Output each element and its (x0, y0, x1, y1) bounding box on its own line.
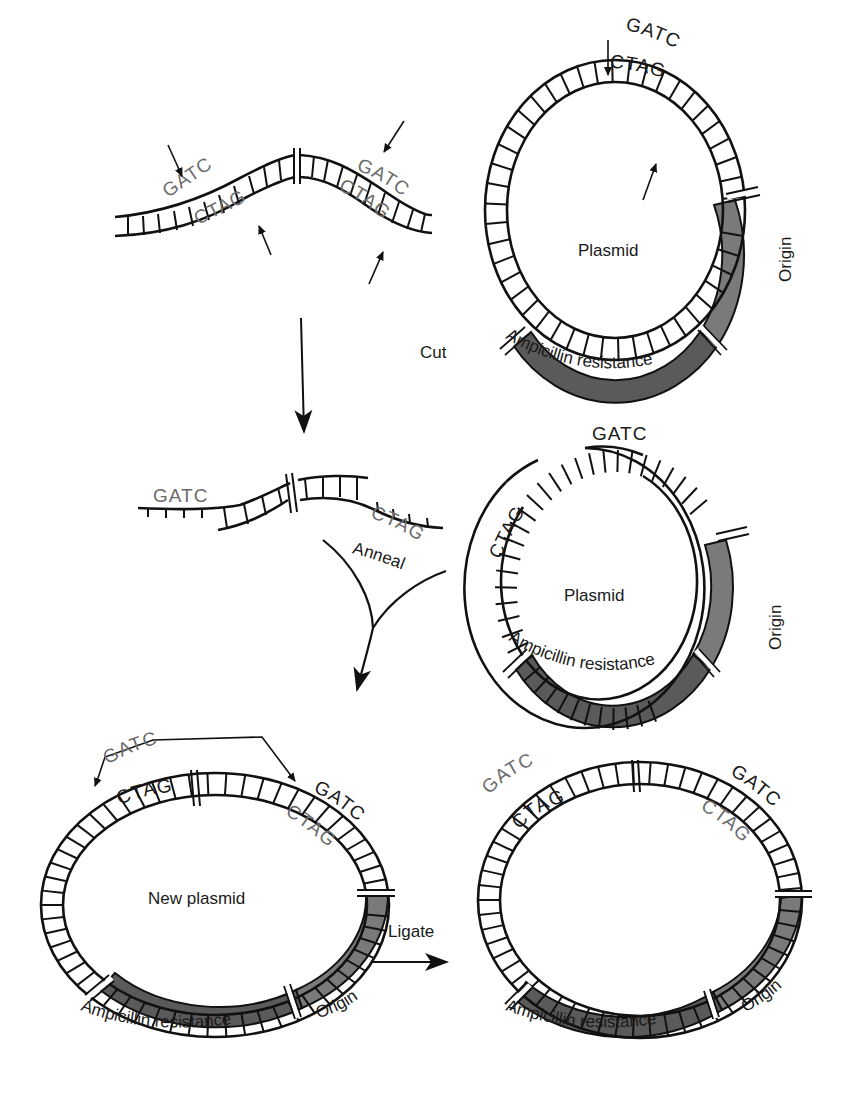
seq-ctag: CTAG (485, 502, 529, 561)
plasmid-step2: GATC CTAG Plasmid Origin Ampicillin resi… (464, 423, 785, 730)
seq-ctag: CTAG (191, 185, 250, 228)
plasmid-label: Plasmid (564, 586, 624, 605)
seq-gatc: GATC (153, 485, 208, 506)
cut-arrow-icon (259, 226, 271, 255)
ligate-label: Ligate (388, 922, 434, 941)
plasmid-label: Plasmid (578, 241, 638, 260)
cut-label: Cut (420, 343, 447, 362)
anneal-label: Anneal (351, 538, 408, 573)
origin-label: Origin (776, 237, 795, 282)
insert-fragment-step1: GATC CTAG GATC CTAG (115, 121, 432, 284)
seq-gatc: GATC (624, 13, 684, 52)
cloning-diagram: GATC CTAG GATC CTAG GATC CTAG Plasmid Or… (0, 0, 850, 1100)
plasmid-step1: GATC CTAG Plasmid Origin Ampicillin resi… (485, 13, 795, 402)
seq-gatc: GATC (477, 748, 536, 797)
seq-gatc: GATC (99, 727, 160, 768)
cut-arrow-icon (643, 164, 656, 200)
final-plasmid: GATC CTAG GATC CTAG Origin Ampicillin re… (477, 748, 812, 1038)
seq-ctag: CTAG (369, 502, 429, 545)
seq-ctag: CTAG (698, 795, 756, 847)
seq-ctag: CTAG (610, 51, 669, 82)
process-arrow-icon (301, 318, 304, 432)
cut-arrow-icon (168, 145, 182, 176)
seq-gatc: GATC (592, 423, 647, 444)
new-plasmid: GATC CTAG GATC CTAG New plasmid Origin A… (41, 727, 395, 1037)
cut-arrow-icon (384, 121, 404, 152)
origin-label: Origin (766, 605, 785, 650)
cut-arrow-icon (369, 252, 383, 284)
insert-fragment-step2: GATC CTAG (138, 473, 443, 545)
new-plasmid-label: New plasmid (148, 889, 245, 908)
